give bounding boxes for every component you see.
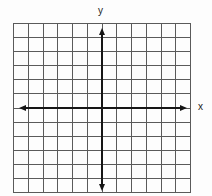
x-axis-label: x bbox=[198, 102, 203, 112]
coordinate-plane bbox=[0, 0, 212, 196]
y-axis-up-arrow-icon bbox=[99, 28, 105, 35]
x-axis-left-arrow-icon bbox=[19, 105, 26, 111]
y-axis-down-arrow-icon bbox=[99, 184, 105, 191]
y-axis-label: y bbox=[98, 6, 103, 16]
x-axis-right-arrow-icon bbox=[180, 105, 187, 111]
